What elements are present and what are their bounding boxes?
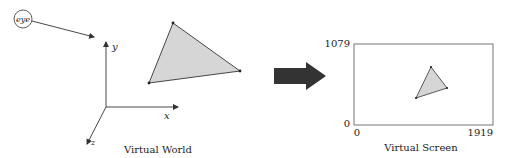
world-to-screen-diagram: eye y x z Virtual World bbox=[0, 0, 518, 158]
x-max-label: 1919 bbox=[468, 127, 493, 138]
virtual-screen-caption: Virtual Screen bbox=[383, 142, 458, 153]
world-triangle bbox=[148, 22, 242, 85]
right-block-arrow-icon bbox=[274, 62, 326, 90]
z-axis-label: z bbox=[90, 138, 96, 147]
virtual-screen: 1079 0 0 1919 Virtual Screen bbox=[325, 38, 493, 153]
vertex bbox=[172, 22, 175, 25]
y-min-label: 0 bbox=[344, 118, 350, 129]
vertex bbox=[430, 66, 432, 68]
virtual-world: eye y x z Virtual World bbox=[14, 10, 241, 155]
eye-icon: eye bbox=[14, 10, 32, 28]
x-axis-label: x bbox=[164, 110, 170, 121]
eye-label: eye bbox=[16, 15, 30, 24]
y-axis-label: y bbox=[111, 41, 118, 52]
view-direction-arrow bbox=[32, 21, 94, 37]
vertex bbox=[148, 82, 151, 85]
vertex bbox=[415, 97, 417, 99]
x-min-label: 0 bbox=[354, 127, 360, 138]
z-axis bbox=[87, 107, 106, 144]
y-max-label: 1079 bbox=[325, 38, 350, 49]
vertex bbox=[239, 70, 242, 73]
vertex bbox=[446, 87, 448, 89]
virtual-world-caption: Virtual World bbox=[123, 144, 192, 155]
